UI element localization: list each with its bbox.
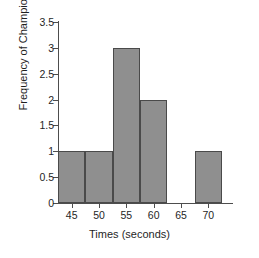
x-axis-title: Times (seconds) [0,228,259,240]
x-tick-mark [154,203,155,208]
x-tick-label: 45 [66,210,78,221]
x-tick-mark [72,203,73,208]
x-tick-mark [126,203,127,208]
y-tick-label: 0.5 [39,172,54,183]
histogram-figure: 00.511.522.533.5 455055606570 Times (sec… [0,0,259,258]
y-tick-label: 1 [48,146,54,157]
y-tick-label: 1.5 [39,120,54,131]
x-tick-mark [181,203,182,208]
y-axis-title: Frequency of Champions [17,0,29,134]
plot-area: 00.511.522.533.5 [58,22,222,203]
x-tick-label: 50 [93,210,105,221]
x-tick-mark [99,203,100,208]
histogram-bar [85,151,112,203]
x-tick-mark [208,203,209,208]
x-tick-label: 55 [120,210,132,221]
x-tick-label: 65 [175,210,187,221]
histogram-bar [140,100,167,203]
histogram-bar [113,48,140,203]
y-tick-label: 2 [48,94,54,105]
x-tick-label: 60 [148,210,160,221]
histogram-bar [58,151,85,203]
y-tick-label: 3 [48,43,54,54]
x-axis-line [58,203,233,204]
y-tick-label: 0 [48,198,54,209]
histogram-bar [195,151,222,203]
y-tick-label: 3.5 [39,17,54,28]
y-tick-label: 2.5 [39,68,54,79]
x-tick-label: 70 [202,210,214,221]
